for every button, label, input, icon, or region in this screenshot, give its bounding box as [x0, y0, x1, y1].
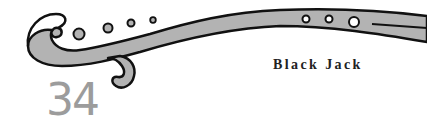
page-header: 34 Black Jack — [0, 0, 427, 132]
chapter-title: Black Jack — [273, 56, 363, 74]
page-number: 34 — [46, 78, 98, 122]
